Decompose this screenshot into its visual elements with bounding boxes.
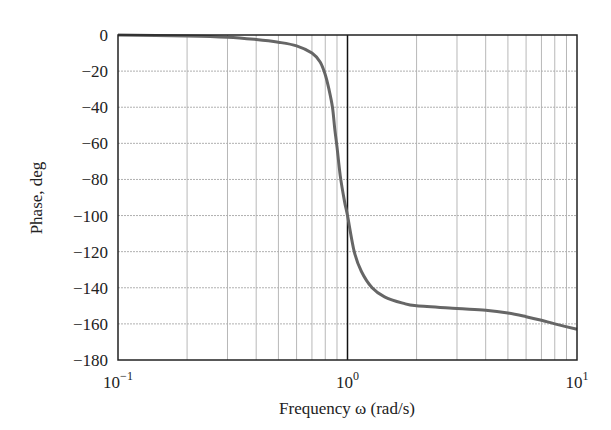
y-axis-title: Phase, deg bbox=[27, 161, 46, 234]
x-axis-tick-labels: 10−1100101 bbox=[103, 369, 588, 392]
y-tick-label: −80 bbox=[81, 170, 108, 189]
x-tick-label: 101 bbox=[566, 369, 589, 392]
y-tick-label: −60 bbox=[81, 134, 108, 153]
phase-chart: 0−20−40−60−80−100−120−140−160−180 10−110… bbox=[0, 0, 611, 430]
y-tick-label: −140 bbox=[73, 279, 108, 298]
y-tick-label: −100 bbox=[73, 207, 108, 226]
y-tick-label: −160 bbox=[73, 315, 108, 334]
y-tick-label: −20 bbox=[81, 62, 108, 81]
y-tick-label: −40 bbox=[81, 98, 108, 117]
y-tick-label: 0 bbox=[100, 26, 109, 45]
y-tick-label: −120 bbox=[73, 243, 108, 262]
x-axis-title: Frequency ω (rad/s) bbox=[279, 399, 415, 418]
vertical-gridlines bbox=[187, 35, 566, 360]
y-tick-label: −180 bbox=[73, 351, 108, 370]
x-tick-label: 10−1 bbox=[103, 369, 133, 392]
x-tick-label: 100 bbox=[336, 369, 359, 392]
y-axis-tick-labels: 0−20−40−60−80−100−120−140−160−180 bbox=[73, 26, 108, 370]
